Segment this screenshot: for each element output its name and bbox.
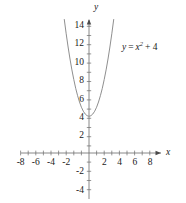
y-tick-label-8: 8 bbox=[68, 76, 84, 86]
equation-equals: = bbox=[128, 42, 133, 52]
x-tick-label-2: 2 bbox=[96, 158, 112, 168]
y-axis-label: y bbox=[94, 3, 98, 13]
y-tick-label-14: 14 bbox=[68, 21, 84, 31]
y-tick-label-12: 12 bbox=[68, 39, 84, 49]
x-axis-arrow-icon bbox=[156, 151, 162, 155]
parabola-figure: y x 14 12 10 8 6 4 2 -2 -4 -8 -6 -4 -2 2… bbox=[0, 0, 186, 203]
x-tick-label-8: 8 bbox=[142, 158, 158, 168]
x-axis bbox=[21, 151, 161, 156]
y-tick-label-10: 10 bbox=[68, 58, 84, 68]
x-tick-label-neg8: -8 bbox=[13, 158, 29, 168]
y-tick-label-6: 6 bbox=[68, 95, 84, 105]
y-tick-label-neg2: -2 bbox=[66, 167, 84, 177]
x-axis-label: x bbox=[166, 148, 170, 158]
equation-constant: + 4 bbox=[145, 42, 157, 52]
x-tick-label-4: 4 bbox=[112, 158, 128, 168]
plot-canvas bbox=[0, 0, 186, 203]
y-tick-label-neg4: -4 bbox=[66, 186, 84, 196]
curve-equation-label: y=x2+ 4 bbox=[122, 43, 158, 53]
x-tick-label-neg4: -4 bbox=[43, 158, 59, 168]
x-tick-label-neg6: -6 bbox=[28, 158, 44, 168]
equation-exponent: 2 bbox=[140, 40, 143, 47]
y-axis bbox=[87, 19, 91, 199]
y-tick-label-4: 4 bbox=[68, 113, 84, 123]
equation-lhs: y bbox=[122, 42, 126, 52]
y-axis-arrow-icon bbox=[87, 19, 91, 25]
x-tick-label-neg2: -2 bbox=[58, 158, 74, 168]
x-tick-label-6: 6 bbox=[127, 158, 143, 168]
y-tick-label-2: 2 bbox=[68, 131, 84, 141]
